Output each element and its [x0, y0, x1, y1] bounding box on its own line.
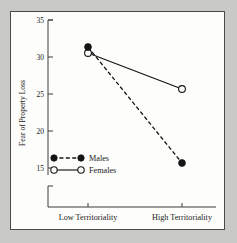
- legend: Males Females: [51, 154, 116, 175]
- legend-males-marker-left: [51, 155, 57, 161]
- y-tick-label-15: 15: [37, 164, 45, 173]
- y-tick-label-30: 30: [37, 53, 45, 62]
- legend-females-marker-left: [51, 167, 57, 173]
- series-females-line: [88, 53, 182, 89]
- figure-container: 35 30 25 20 15 Fear of Property Loss Low…: [0, 0, 237, 243]
- legend-females-marker-right: [78, 167, 84, 173]
- legend-males-marker-right: [78, 155, 84, 161]
- legend-females-label: Females: [89, 166, 116, 175]
- y-tick-label-25: 25: [37, 90, 45, 99]
- line-chart: 35 30 25 20 15 Fear of Property Loss Low…: [0, 0, 237, 243]
- series-males-line: [88, 47, 182, 163]
- y-tick-label-20: 20: [37, 127, 45, 136]
- x-tick-label-low: Low Territoriality: [59, 213, 119, 222]
- legend-entry-males: Males: [51, 154, 109, 163]
- x-tick-label-high: High Territoriality: [152, 213, 213, 222]
- data-point-males-low: [85, 44, 92, 51]
- legend-entry-females: Females: [51, 166, 116, 175]
- legend-males-label: Males: [89, 154, 109, 163]
- data-point-males-high: [179, 160, 186, 167]
- data-point-females-high: [179, 86, 186, 93]
- y-tick-label-35: 35: [37, 16, 45, 25]
- y-axis-title: Fear of Property Loss: [18, 80, 27, 146]
